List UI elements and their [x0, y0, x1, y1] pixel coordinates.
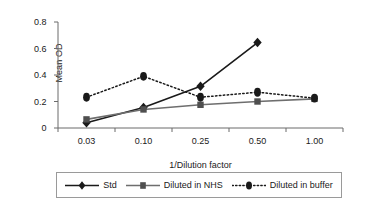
legend-label-nhs: Diluted in NHS: [164, 180, 223, 190]
data-point: [254, 98, 260, 104]
plot-area: Mean OD 1/Dilution factor 0 0.2 0.4 0.6 …: [58, 22, 343, 128]
series-std: [82, 38, 261, 128]
data-point: [311, 94, 318, 103]
data-point: [253, 38, 261, 48]
legend-label-buffer: Diluted in buffer: [270, 180, 333, 190]
legend-swatch-nhs: [126, 180, 160, 191]
y-tick-label: 0: [13, 123, 47, 133]
legend-swatch-std: [65, 180, 99, 191]
plot-canvas: [58, 22, 343, 132]
x-axis-title: 1/Dilution factor: [58, 160, 343, 170]
legend-label-std: Std: [103, 180, 117, 190]
data-point: [140, 106, 146, 112]
data-point: [196, 81, 204, 91]
legend-entry-nhs[interactable]: Diluted in NHS: [126, 180, 223, 191]
data-point: [83, 116, 89, 122]
data-point: [254, 88, 261, 97]
axes-layer: [54, 22, 343, 132]
legend-entry-std[interactable]: Std: [65, 180, 117, 191]
data-point: [83, 93, 90, 102]
data-point: [140, 72, 147, 81]
legend-entry-buffer[interactable]: Diluted in buffer: [232, 180, 333, 191]
y-tick-label: 0.2: [13, 97, 47, 107]
data-point: [197, 102, 203, 108]
chart-legend: Std Diluted in NHS Diluted in buffer: [56, 172, 342, 198]
y-tick-label: 0.6: [13, 44, 47, 54]
data-point: [197, 93, 204, 102]
y-tick-label: 0.4: [13, 70, 47, 80]
legend-swatch-buffer: [232, 180, 266, 191]
series-layer: [82, 38, 318, 128]
chart-figure: Mean OD 1/Dilution factor 0 0.2 0.4 0.6 …: [0, 0, 378, 212]
y-tick-label: 0.8: [13, 17, 47, 27]
